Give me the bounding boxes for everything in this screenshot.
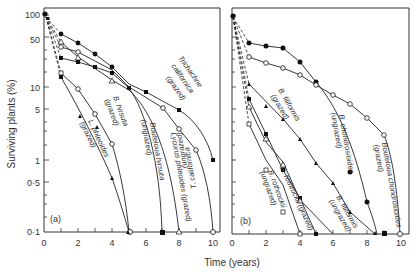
x-tick-4-b: 4 (297, 238, 302, 248)
x-tick-0-b: 0 (229, 238, 234, 248)
panel-a: 100 50 10 5 1 0·5 0·1 0 2 4 6 8 10 (a) (25, 8, 220, 248)
y-tick-5: 5 (35, 105, 40, 115)
x-tick-6-b: 6 (330, 238, 335, 248)
y-axis-title: Surviving plants (%) (6, 80, 17, 169)
y-ticks-b (232, 15, 236, 217)
x-tick-2: 2 (75, 238, 80, 248)
panel-b-label: (b) (240, 216, 251, 226)
y-tick-1: 1 (35, 156, 40, 166)
x-tick-2-b: 2 (263, 238, 268, 248)
panel-b: 0 2 4 6 8 10 (b) (229, 8, 409, 248)
y-tick-100: 100 (25, 10, 40, 20)
x-tick-6: 6 (143, 238, 148, 248)
survival-chart: 100 50 10 5 1 0·5 0·1 0 2 4 6 8 10 (a) (0, 0, 420, 276)
x-tick-0: 0 (41, 238, 46, 248)
panel-a-label: (a) (50, 214, 61, 224)
markers-b (230, 13, 402, 236)
x-tick-8-b: 8 (364, 238, 369, 248)
x-tick-8: 8 (176, 238, 181, 248)
y-tick-50: 50 (30, 35, 40, 45)
x-axis-title: Time (years) (204, 257, 260, 268)
x-tick-10: 10 (208, 238, 218, 248)
y-tick-0-5: 0·5 (27, 178, 40, 188)
y-ticks-a (44, 15, 49, 217)
y-tick-0-1: 0·1 (27, 227, 40, 237)
x-tick-4: 4 (109, 238, 114, 248)
x-tick-10-b: 10 (396, 238, 406, 248)
y-tick-10: 10 (30, 83, 40, 93)
